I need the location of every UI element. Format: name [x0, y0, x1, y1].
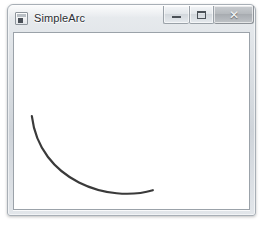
arc-canvas: [14, 33, 249, 209]
arc-curve: [32, 116, 153, 194]
desktop-background: SimpleArc ✕: [0, 0, 263, 225]
window-titlebar[interactable]: SimpleArc: [8, 5, 255, 31]
simplearc-window: SimpleArc ✕: [7, 4, 256, 216]
form-window-icon[interactable]: [15, 12, 28, 25]
client-area: [13, 32, 250, 210]
window-title: SimpleArc: [34, 13, 85, 24]
